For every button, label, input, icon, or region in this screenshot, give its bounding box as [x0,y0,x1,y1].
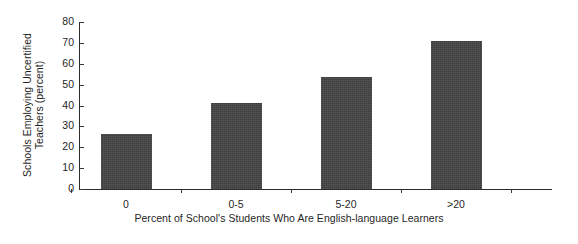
x-axis-line [79,189,552,190]
bar [211,103,262,189]
plot-area: 01020304050607080 00-55-20>20 [79,22,552,189]
y-axis-title-line-2: Teachers (percent) [33,61,46,149]
x-axis-tick-mark [181,189,182,193]
x-axis-tick-mark [71,189,72,193]
bars-layer [79,22,552,189]
bar-chart-figure: Schools Employing Uncertified Teachers (… [0,0,578,244]
y-axis-tick: 0 [79,189,84,190]
y-axis-tick-label: 40 [62,99,74,111]
x-axis-tick-mark [291,189,292,193]
y-axis-tick-label: 60 [62,57,74,69]
x-axis-category-label: 5-20 [335,198,356,210]
x-axis-tick-mark [401,189,402,193]
y-axis-tick-label: 30 [62,119,74,131]
x-axis-title: Percent of School's Students Who Are Eng… [0,212,578,224]
y-axis-tick-label: 80 [62,15,74,27]
x-axis-category-label: 0 [123,198,129,210]
y-axis-tick-label: 70 [62,36,74,48]
y-axis-tick-label: 50 [62,78,74,90]
y-axis-tick-label: 20 [62,140,74,152]
bar [431,41,482,189]
y-axis-title: Schools Employing Uncertified Teachers (… [16,10,50,200]
y-axis-tick-label: 10 [62,161,74,173]
x-axis-category-label: 0-5 [228,198,243,210]
bar [101,134,152,189]
y-axis-title-line-1: Schools Employing Uncertified [21,33,34,177]
bar [321,77,372,189]
x-axis-tick-mark [511,189,512,193]
y-axis-tick-mark [80,189,84,190]
x-axis-category-label: >20 [447,198,465,210]
